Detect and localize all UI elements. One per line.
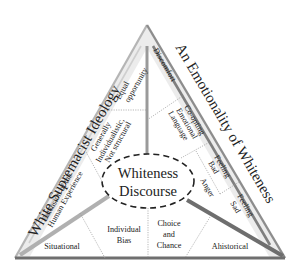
bottom-item-situational: Situational (44, 242, 80, 251)
svg-text:Chance: Chance (157, 241, 182, 250)
whiteness-discourse-diagram: Whiteness Discourse White Supremacist Id… (0, 0, 296, 266)
center-label-line2: Discourse (119, 183, 177, 199)
svg-text:Choice: Choice (157, 219, 181, 228)
right-item-anger: Anger (198, 176, 216, 198)
svg-text:Individual: Individual (107, 225, 141, 234)
bottom-item-choice-and-chance: Choice and Chance (157, 219, 182, 250)
bottom-item-individual-bias: Individual Bias (107, 225, 141, 245)
center-label-line1: Whiteness (118, 165, 179, 181)
bottom-item-ahistorical: Ahistorical (212, 242, 249, 251)
right-item-feeling-sad: Feeling Sad (228, 192, 255, 218)
center-ellipse (102, 154, 194, 208)
svg-text:Bias: Bias (117, 236, 132, 245)
right-item-feeling-bad: Feeling Bad (206, 153, 232, 179)
svg-text:and: and (163, 230, 175, 239)
